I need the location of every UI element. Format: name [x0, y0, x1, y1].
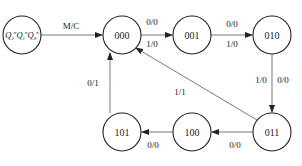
legend-state-node: Q2nQ1nQ0n	[3, 16, 41, 54]
svg-text:001: 001	[185, 30, 200, 41]
state-node-100: 100	[173, 113, 211, 151]
edge-011-to-000	[136, 48, 257, 120]
label-100-101: 0/0	[147, 140, 159, 150]
state-node-000: 000	[103, 16, 141, 54]
state-node-101: 101	[103, 113, 141, 151]
svg-text:000: 000	[115, 30, 130, 41]
label-101-000: 0/1	[87, 78, 99, 88]
svg-text:011: 011	[265, 127, 280, 138]
svg-text:101: 101	[115, 127, 130, 138]
label-010-011-left: 1/0	[255, 75, 267, 85]
label-001-010-bottom: 1/0	[226, 39, 238, 49]
label-010-011-right: 0/0	[277, 75, 289, 85]
state-node-011: 011	[253, 113, 291, 151]
label-011-000: 1/1	[174, 87, 186, 97]
svg-text:010: 010	[265, 30, 280, 41]
state-node-001: 001	[173, 16, 211, 54]
state-diagram: Q2nQ1nQ0n 000 001 010 011 100 101 M/C 0/…	[0, 0, 302, 166]
label-001-010-top: 0/0	[226, 19, 238, 29]
svg-text:100: 100	[185, 127, 200, 138]
label-000-001-top: 0/0	[146, 17, 158, 27]
label-000-001-bottom: 1/0	[146, 39, 158, 49]
state-node-010: 010	[253, 16, 291, 54]
label-legend-edge: M/C	[63, 21, 80, 31]
label-011-100: 0/0	[229, 140, 241, 150]
